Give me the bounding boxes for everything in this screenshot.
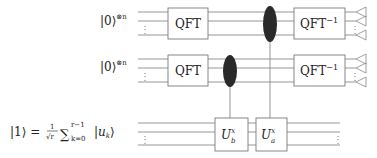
sum-upper-limit: r−1 — [71, 121, 85, 129]
ellipsis-icon: ⋮ — [140, 134, 150, 145]
ellipsis-icon: ⋮ — [140, 24, 150, 35]
register-1-label: |0⟩⊗n — [100, 13, 127, 28]
fraction-denominator: √r — [46, 133, 54, 141]
measurement-icon — [356, 7, 366, 17]
gate-label: QFT — [175, 17, 201, 31]
gate-label: QFT — [175, 64, 201, 78]
ua-gate: Uxa — [256, 118, 287, 151]
ellipsis-icon: ⋮ — [333, 134, 343, 145]
sum-lower-limit: k=0 — [71, 135, 86, 143]
inverse-qft-gate-2: QFT−1 — [294, 55, 345, 86]
target-register-label: |1⟩ = 1 √r ∑ r−1 k=0 |uk⟩ — [10, 121, 115, 143]
fraction-numerator: 1 — [50, 123, 54, 131]
inverse-qft-gate-1: QFT−1 — [294, 8, 345, 39]
ellipsis-icon: ⋮ — [140, 71, 150, 82]
basis-ket: |uk⟩ — [94, 125, 115, 140]
qft-gate-1: QFT — [168, 8, 208, 39]
sum-symbol: ∑ — [60, 127, 70, 142]
qft-gate-2: QFT — [168, 55, 208, 86]
target-state-lhs: |1⟩ = — [10, 125, 40, 139]
control-blob-register-2 — [223, 55, 237, 87]
ub-gate: Uxb — [215, 118, 248, 151]
quantum-circuit-diagram: ⋮ ⋮ ⋮ ⋮ ⋮ ⋮ |0⟩⊗n |0⟩⊗n |1⟩ = 1 √r ∑ r−1… — [0, 0, 377, 158]
register-2-label: |0⟩⊗n — [100, 59, 127, 74]
control-blob-register-1 — [263, 6, 277, 42]
measurement-icon — [356, 54, 366, 64]
